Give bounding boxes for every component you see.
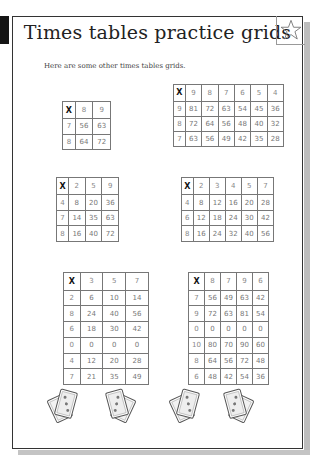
row-header: 9 <box>174 101 186 116</box>
product-cell: 0 <box>253 322 269 338</box>
product-cell: 56 <box>75 119 93 134</box>
product-cell: 12 <box>193 210 209 226</box>
column-header: 4 <box>225 178 241 195</box>
row-header: 7 <box>64 369 81 385</box>
grid-row: 864567248 <box>189 353 269 369</box>
product-cell: 0 <box>126 337 149 353</box>
product-cell: 16 <box>193 226 209 242</box>
product-cell: 35 <box>103 369 126 385</box>
column-header: 3 <box>209 178 225 195</box>
product-cell: 35 <box>251 131 267 146</box>
column-header: 9 <box>102 178 119 195</box>
row-header: 8 <box>189 353 205 369</box>
product-cell: 8 <box>193 195 209 211</box>
row-header: 4 <box>64 353 81 369</box>
product-cell: 0 <box>205 322 221 338</box>
row-header: 8 <box>64 306 81 322</box>
product-cell: 81 <box>185 101 201 116</box>
grid-row: 00000 <box>189 322 269 338</box>
playing-cards-icon <box>220 385 256 425</box>
product-cell: 20 <box>241 195 257 211</box>
grid-row: 6183042 <box>64 322 149 338</box>
row-header: 6 <box>189 369 205 385</box>
product-cell: 20 <box>103 353 126 369</box>
intro-text: Here are some other times tables grids. <box>44 62 186 70</box>
row-header: 6 <box>182 210 194 226</box>
star-outline-icon <box>280 19 302 41</box>
row-header: 0 <box>189 322 205 338</box>
grid-header-row: X259 <box>57 178 119 195</box>
product-cell: 40 <box>241 226 257 242</box>
column-header: 5 <box>241 178 257 195</box>
times-grid-5: X357261014824405661830420000412202872135… <box>63 272 149 385</box>
grid-header-row: X23457 <box>182 178 274 195</box>
grid-header-row: X987654 <box>174 85 284 102</box>
product-cell: 18 <box>80 322 103 338</box>
column-header: 8 <box>75 102 93 119</box>
product-cell: 16 <box>225 195 241 211</box>
product-cell: 48 <box>205 369 221 385</box>
row-header: 7 <box>189 290 205 306</box>
playing-cards-icon <box>167 385 203 425</box>
product-cell: 12 <box>209 195 225 211</box>
product-cell: 14 <box>69 210 86 226</box>
product-cell: 63 <box>102 210 119 226</box>
grid-row: 648425436 <box>189 369 269 385</box>
product-cell: 32 <box>225 226 241 242</box>
grid-row: 75663 <box>63 119 111 134</box>
grid-row: 7213549 <box>64 369 149 385</box>
times-grid-2: X897566386472 <box>62 101 111 150</box>
product-cell: 36 <box>253 369 269 385</box>
product-cell: 42 <box>221 369 237 385</box>
product-cell: 70 <box>221 337 237 353</box>
row-header: 8 <box>174 116 186 131</box>
star-badge <box>276 16 305 45</box>
product-cell: 54 <box>253 306 269 322</box>
row-header: 8 <box>57 226 69 242</box>
column-header: 6 <box>253 273 269 291</box>
product-cell: 81 <box>237 306 253 322</box>
page-shadow-right <box>304 22 310 455</box>
product-cell: 24 <box>80 306 103 322</box>
product-cell: 6 <box>80 290 103 306</box>
column-header: 4 <box>267 85 283 102</box>
product-cell: 40 <box>103 306 126 322</box>
product-cell: 72 <box>205 306 221 322</box>
column-header: 5 <box>85 178 102 195</box>
times-grid-3: X25948203671435638164072 <box>56 177 119 242</box>
row-header: 10 <box>189 337 205 353</box>
column-header: 9 <box>237 273 253 291</box>
grid-row: 756496342 <box>189 290 269 306</box>
multiply-sign: X <box>63 102 76 119</box>
column-header: 7 <box>126 273 149 291</box>
product-cell: 21 <box>80 369 103 385</box>
product-cell: 60 <box>253 337 269 353</box>
product-cell: 24 <box>209 226 225 242</box>
product-cell: 72 <box>93 134 111 149</box>
product-cell: 28 <box>267 131 283 146</box>
product-cell: 54 <box>234 101 250 116</box>
row-header: 7 <box>174 131 186 146</box>
grid-header-row: X357 <box>64 273 149 291</box>
column-header: 7 <box>221 273 237 291</box>
column-header: 2 <box>69 178 86 195</box>
times-grid-4: X2345748121620286121824304281624324056 <box>181 177 274 242</box>
grid-row: 61218243042 <box>182 210 274 226</box>
product-cell: 63 <box>218 101 234 116</box>
product-cell: 28 <box>257 195 273 211</box>
product-cell: 56 <box>126 306 149 322</box>
product-cell: 63 <box>185 131 201 146</box>
row-header: 8 <box>182 226 194 242</box>
column-header: 9 <box>185 85 201 102</box>
product-cell: 48 <box>234 116 250 131</box>
grid-row: 1080709060 <box>189 337 269 353</box>
grid-row: 9817263544536 <box>174 101 284 116</box>
row-header: 7 <box>63 119 76 134</box>
multiply-sign: X <box>189 273 205 291</box>
grid-row: 8244056 <box>64 306 149 322</box>
product-cell: 0 <box>80 337 103 353</box>
product-cell: 10 <box>103 290 126 306</box>
product-cell: 42 <box>234 131 250 146</box>
product-cell: 64 <box>205 353 221 369</box>
product-cell: 42 <box>126 322 149 338</box>
